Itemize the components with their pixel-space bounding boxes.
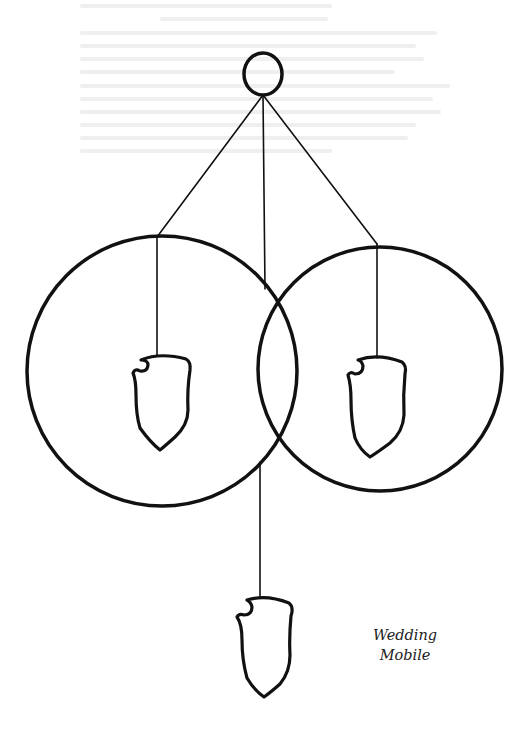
right-shield	[348, 357, 406, 457]
mobile-drawing	[0, 0, 532, 733]
top-ring	[244, 53, 282, 95]
caption-line-2: Mobile	[360, 645, 450, 665]
hanging-strings	[157, 95, 377, 597]
wedding-mobile-diagram: Wedding Mobile	[0, 0, 532, 733]
left-shield	[133, 356, 190, 450]
caption-line-1: Wedding	[360, 625, 450, 645]
bottom-shield	[237, 598, 292, 697]
diagram-caption: Wedding Mobile	[360, 625, 450, 665]
right-ring	[258, 247, 502, 491]
